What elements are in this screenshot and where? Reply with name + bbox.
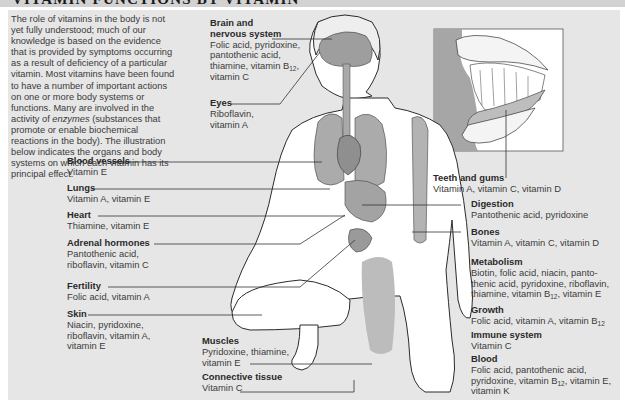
label-value: Vitamin A, vitamin C, vitamin D <box>433 184 561 195</box>
intro-italic: enzymes <box>52 114 89 124</box>
label-value: vitamin E <box>67 341 150 352</box>
label-immune-system: Immune system Vitamin C <box>471 330 542 352</box>
teeth-inset <box>434 29 563 151</box>
label-value: vitamin A <box>210 120 254 131</box>
label-lungs: Lungs Vitamin A, vitamin E <box>67 183 150 205</box>
label-value: Pantothenic acid, <box>67 249 150 260</box>
label-heart: Heart Thiamine, vitamin E <box>67 210 149 232</box>
label-value: Pantothenic acid, pyridoxine <box>471 210 588 221</box>
label-value: vitamin C <box>210 72 300 83</box>
label-connective-tissue: Connective tissue Vitamin C <box>202 372 282 394</box>
text: pyridoxine, vitamin B <box>471 375 558 386</box>
label-value: vitamin E <box>202 358 289 369</box>
label-value: Niacin, pyridoxine, <box>67 320 150 331</box>
label-title: nervous system <box>210 29 300 40</box>
label-value: Vitamin A, vitamin C, vitamin D <box>471 238 599 249</box>
text: thiamine, vitamin B <box>471 288 550 299</box>
label-brain: Brain and nervous system Folic acid, pyr… <box>210 18 300 83</box>
label-value: Vitamin A, vitamin E <box>67 194 150 205</box>
text: , vitamin E, <box>565 375 611 386</box>
text: thiamine, vitamin B <box>210 60 289 71</box>
label-value: Thiamine, vitamin E <box>67 221 149 232</box>
label-value: Vitamin C <box>202 383 282 394</box>
brain-organ <box>319 32 372 67</box>
intro-text-1: The role of vitamins in the body is not … <box>11 14 174 124</box>
label-value: Riboflavin, <box>210 109 254 120</box>
label-digestion: Digestion Pantothenic acid, pyridoxine <box>471 199 588 221</box>
subscript: 12 <box>558 380 565 387</box>
label-value: vitamin K <box>471 386 611 397</box>
text: , <box>296 60 299 71</box>
leg-muscle <box>362 257 395 354</box>
text: , vitamin E <box>557 288 601 299</box>
label-value: Folic acid, vitamin A, vitamin B12 <box>471 316 605 327</box>
label-value: thiamine, vitamin B12, vitamin E <box>471 289 609 300</box>
label-value: riboflavin, vitamin C <box>67 260 150 271</box>
label-blood-vessels: Blood vessels Vitamin E <box>67 156 130 178</box>
subscript: 12 <box>598 320 605 327</box>
label-value: Folic acid, vitamin A <box>67 292 150 303</box>
label-adrenal: Adrenal hormones Pantothenic acid, ribof… <box>67 238 150 270</box>
label-metabolism: Metabolism Biotin, folic acid, niacin, p… <box>471 257 609 300</box>
label-teeth-gums: Teeth and gums Vitamin A, vitamin C, vit… <box>433 173 561 195</box>
label-value: Vitamin E <box>67 167 130 178</box>
label-eyes: Eyes Riboflavin, vitamin A <box>210 98 254 130</box>
label-muscles: Muscles Pyridoxine, thiamine, vitamin E <box>202 336 289 368</box>
label-value: Vitamin C <box>471 341 542 352</box>
arm-bone <box>412 117 428 244</box>
text: Folic acid, vitamin A, vitamin B <box>471 315 598 326</box>
label-bones: Bones Vitamin A, vitamin C, vitamin D <box>471 227 599 249</box>
label-value: Pyridoxine, thiamine, <box>202 347 289 358</box>
label-blood: Blood Folic acid, pantothenic acid, pyri… <box>471 354 611 397</box>
label-growth: Growth Folic acid, vitamin A, vitamin B1… <box>471 305 605 327</box>
label-fertility: Fertility Folic acid, vitamin A <box>67 281 150 303</box>
label-value: Biotin, folic acid, niacin, panto- <box>471 268 609 279</box>
label-skin: Skin Niacin, pyridoxine, riboflavin, vit… <box>67 309 150 352</box>
